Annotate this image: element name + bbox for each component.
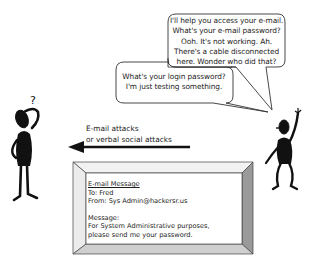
attacker-speech-line: I'll help you access your e-mail. [170, 16, 283, 26]
email-title: E-mail Message [88, 180, 210, 189]
login-speech-line: I'm just testing something. [118, 82, 230, 92]
login-speech-line: What's your login password? [118, 72, 230, 82]
arrow-label-line: E-mail attacks [86, 123, 172, 134]
attacker-speech-line: here. Wonder who did that? [170, 57, 283, 67]
email-body-line: please send me your password. [88, 231, 210, 240]
email-message: E-mail Message To: Fred From: Sys Admin@… [88, 180, 210, 240]
attacker-speech-text: I'll help you access your e-mail. What's… [170, 16, 283, 67]
attacker-speech-line: There's a cable disconnected [170, 47, 283, 57]
question-mark-icon: ? [30, 94, 36, 107]
login-speech-text: What's your login password? I'm just tes… [118, 72, 230, 93]
email-body-line: For System Administrative purposes, [88, 222, 210, 231]
email-spacer [88, 206, 210, 214]
attacker-speech-line: Ooh. It's not working. Ah. [170, 37, 283, 47]
attacker-figure [266, 108, 301, 189]
arrow-label: E-mail attacks or verbal social attacks [86, 123, 172, 145]
arrow-label-line: or verbal social attacks [86, 134, 172, 145]
confused-person-figure: ? [12, 94, 38, 200]
attacker-speech-line: What's your e-mail password? [170, 26, 283, 36]
email-to: To: Fred [88, 189, 210, 198]
email-message-label: Message: [88, 214, 210, 223]
email-from: From: Sys Admin@hackersr.us [88, 197, 210, 206]
